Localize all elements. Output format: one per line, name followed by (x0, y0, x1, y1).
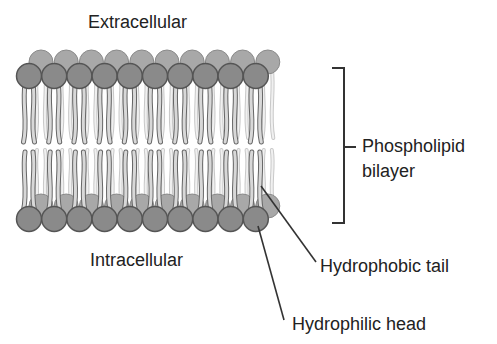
bilayer-bracket (332, 68, 356, 223)
head-pointer (258, 226, 284, 320)
bilayer-label-line2: bilayer (362, 161, 415, 183)
tail-pointer (261, 186, 316, 262)
head-label: Hydrophilic head (292, 314, 426, 336)
bilayer-diagram (0, 0, 497, 344)
tail-label: Hydrophobic tail (320, 256, 449, 278)
bilayer-label-line1: Phospholipid (362, 136, 465, 158)
extracellular-label: Extracellular (88, 12, 187, 34)
intracellular-label: Intracellular (90, 250, 183, 272)
